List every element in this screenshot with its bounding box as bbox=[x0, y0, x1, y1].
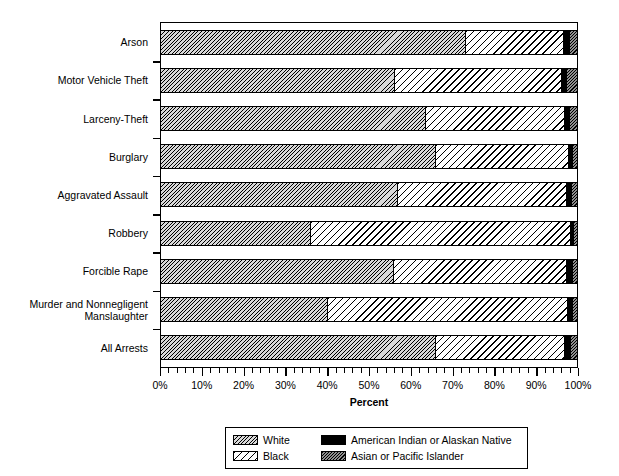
segment-black bbox=[311, 222, 571, 245]
x-axis-minor-tick bbox=[310, 368, 311, 373]
bar-row bbox=[160, 99, 578, 137]
bar-row bbox=[160, 61, 578, 99]
x-axis-major-tick bbox=[327, 368, 328, 376]
x-axis-major-tick bbox=[160, 368, 161, 376]
x-axis-minor-tick bbox=[168, 368, 169, 373]
segment-white bbox=[161, 183, 398, 206]
segment-black bbox=[398, 183, 566, 206]
x-axis-minor-tick bbox=[294, 368, 295, 373]
x-axis-major-tick bbox=[536, 368, 537, 376]
segment-black bbox=[395, 69, 562, 92]
x-axis-major-tick bbox=[369, 368, 370, 376]
legend-label: American Indian or Alaskan Native bbox=[351, 434, 512, 446]
segment-asian bbox=[574, 222, 577, 245]
x-axis-minor-tick bbox=[503, 368, 504, 373]
y-axis-label: All Arrests bbox=[0, 342, 148, 354]
x-axis-minor-tick bbox=[402, 368, 403, 373]
segment-white bbox=[161, 298, 328, 321]
x-axis-tick-label: 0% bbox=[137, 379, 183, 391]
x-axis-major-tick bbox=[578, 368, 579, 376]
x-axis-major-tick bbox=[285, 368, 286, 376]
x-axis-tick-label: 20% bbox=[221, 379, 267, 391]
bar-row bbox=[160, 214, 578, 252]
x-axis-minor-tick bbox=[377, 368, 378, 373]
x-axis-minor-tick bbox=[361, 368, 362, 373]
y-axis-tick bbox=[153, 329, 161, 330]
y-axis-tick bbox=[153, 214, 161, 215]
y-axis-label: Burglary bbox=[0, 151, 148, 163]
legend-row: White American Indian or Alaskan Native bbox=[233, 432, 521, 448]
x-axis-tick-label: 60% bbox=[388, 379, 434, 391]
x-axis-major-tick bbox=[411, 368, 412, 376]
x-axis-minor-tick bbox=[553, 368, 554, 373]
segment-black bbox=[436, 145, 568, 168]
segment-black bbox=[394, 260, 567, 283]
x-axis-minor-tick bbox=[352, 368, 353, 373]
x-axis-minor-tick bbox=[302, 368, 303, 373]
y-axis-label: Larceny-Theft bbox=[0, 113, 148, 125]
x-axis-tick-label: 80% bbox=[471, 379, 517, 391]
x-axis-minor-tick bbox=[461, 368, 462, 373]
white-hatch-swatch bbox=[233, 435, 258, 445]
x-axis-tick-label: 70% bbox=[430, 379, 476, 391]
segment-white bbox=[161, 69, 395, 92]
segment-white bbox=[161, 145, 436, 168]
stacked-bar bbox=[160, 297, 578, 322]
x-axis-minor-tick bbox=[336, 368, 337, 373]
y-axis-tick bbox=[153, 61, 161, 62]
stacked-bar bbox=[160, 144, 578, 169]
asian-hatch-swatch bbox=[321, 451, 346, 461]
x-axis-minor-tick bbox=[193, 368, 194, 373]
x-axis-minor-tick bbox=[277, 368, 278, 373]
bar-row bbox=[160, 329, 578, 367]
x-axis-minor-tick bbox=[394, 368, 395, 373]
stacked-bar bbox=[160, 259, 578, 284]
x-axis-minor-tick bbox=[227, 368, 228, 373]
x-axis-minor-tick bbox=[428, 368, 429, 373]
segment-asian bbox=[573, 298, 577, 321]
x-axis-minor-tick bbox=[436, 368, 437, 373]
x-axis-minor-tick bbox=[219, 368, 220, 373]
segment-asian bbox=[573, 145, 577, 168]
y-axis-tick bbox=[153, 291, 161, 292]
y-axis-labels: ArsonMotor Vehicle TheftLarceny-TheftBur… bbox=[0, 23, 155, 367]
segment-black bbox=[328, 298, 568, 321]
y-axis-label: Aggravated Assault bbox=[0, 189, 148, 201]
legend-item-asian: Asian or Pacific Islander bbox=[321, 450, 464, 462]
y-axis-label: Murder and NonnegligentManslaughter bbox=[0, 298, 148, 322]
x-axis-major-tick bbox=[494, 368, 495, 376]
x-axis-major-tick bbox=[202, 368, 203, 376]
bar-rows bbox=[160, 23, 578, 367]
x-axis-tick-label: 100% bbox=[555, 379, 601, 391]
legend-row: Black Asian or Pacific Islander bbox=[233, 448, 521, 464]
x-axis-tick-label: 40% bbox=[304, 379, 350, 391]
segment-asian bbox=[567, 69, 577, 92]
x-axis-minor-tick bbox=[545, 368, 546, 373]
legend-label: Asian or Pacific Islander bbox=[351, 450, 464, 462]
x-axis-minor-tick bbox=[185, 368, 186, 373]
stacked-bar-chart: ArsonMotor Vehicle TheftLarceny-TheftBur… bbox=[0, 0, 619, 476]
x-axis-minor-tick bbox=[252, 368, 253, 373]
legend-label: Black bbox=[263, 450, 289, 462]
x-axis-tick-label: 30% bbox=[262, 379, 308, 391]
x-axis-minor-tick bbox=[319, 368, 320, 373]
x-axis-tick-label: 50% bbox=[346, 379, 392, 391]
legend-item-black: Black bbox=[233, 450, 321, 462]
x-axis-minor-tick bbox=[528, 368, 529, 373]
x-axis-minor-tick bbox=[419, 368, 420, 373]
segment-white bbox=[161, 222, 311, 245]
stacked-bar bbox=[160, 221, 578, 246]
x-axis-major-tick bbox=[453, 368, 454, 376]
black-hatch-swatch bbox=[233, 451, 258, 461]
segment-asian bbox=[573, 260, 577, 283]
bar-row bbox=[160, 176, 578, 214]
x-axis-title: Percent bbox=[160, 396, 578, 408]
segment-black bbox=[466, 31, 564, 54]
segment-asian bbox=[571, 336, 577, 359]
x-axis-minor-tick bbox=[570, 368, 571, 373]
y-axis-tick bbox=[153, 99, 161, 100]
bar-row bbox=[160, 291, 578, 329]
segment-asian bbox=[570, 107, 577, 130]
stacked-bar bbox=[160, 68, 578, 93]
y-axis-label: Motor Vehicle Theft bbox=[0, 74, 148, 86]
